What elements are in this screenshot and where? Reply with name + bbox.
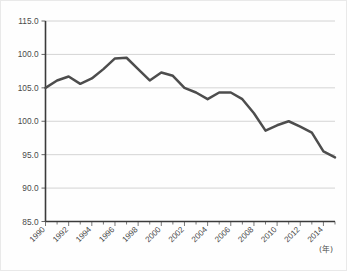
x-axis-tick-label: 2012: [283, 225, 302, 244]
y-axis-tick-label: 100.0: [18, 116, 39, 126]
x-axis-tick-label: 2010: [259, 225, 278, 244]
y-axis-tick-label: 95.0: [22, 150, 39, 160]
x-axis-tick-label: 2014: [306, 225, 325, 244]
x-axis-tick-label: 1994: [74, 225, 93, 244]
y-axis-tick-label: 100.0: [18, 49, 39, 59]
y-axis-tick-label: 115.0: [18, 16, 39, 26]
x-axis-labels-group: 1990199219941996199820002002200420062008…: [28, 225, 325, 244]
x-axis-tick-label: 1998: [120, 225, 139, 244]
x-axis-tick-label: 2002: [167, 225, 186, 244]
y-axis-tick-label: 105.0: [18, 83, 39, 93]
x-axis-tick-label: 2000: [144, 225, 163, 244]
data-line-index: [46, 58, 336, 158]
plot-area: 115.0100.0105.0100.095.090.085.0 1990199…: [0, 0, 347, 271]
x-axis-tick-label: 1992: [51, 225, 70, 244]
chart-canvas: 115.0100.0105.0100.095.090.085.0 1990199…: [0, 0, 347, 271]
x-axis-tick-label: 1996: [97, 225, 116, 244]
x-axis-tick-label: 1990: [28, 225, 47, 244]
y-axis-labels-group: 115.0100.0105.0100.095.090.085.0: [18, 16, 39, 227]
line-chart: 115.0100.0105.0100.095.090.085.0 1990199…: [0, 0, 347, 271]
x-axis-tick-label: 2006: [213, 225, 232, 244]
x-axis-tick-label: 2008: [236, 225, 255, 244]
x-axis-tick-label: 2004: [190, 225, 209, 244]
y-axis-tick-label: 85.0: [22, 217, 39, 227]
x-axis-unit-label: (年): [319, 244, 333, 254]
y-axis-tick-label: 90.0: [22, 183, 39, 193]
